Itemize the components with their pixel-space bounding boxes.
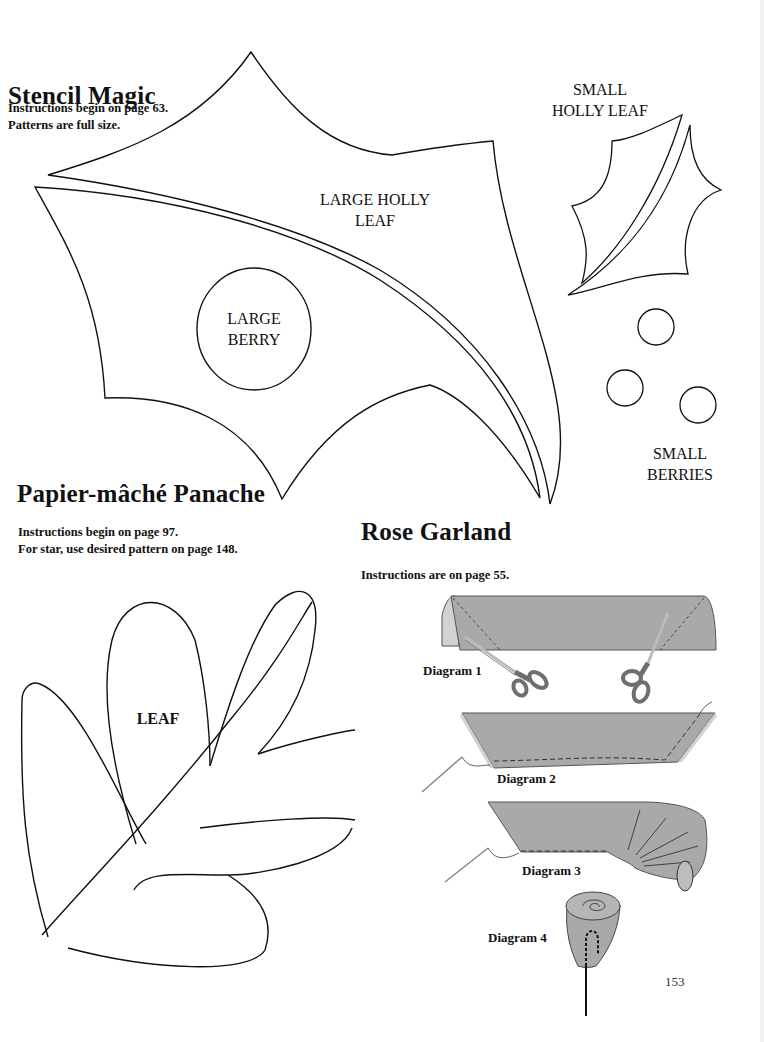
diagram-4-illustration (566, 892, 620, 1016)
papier-mache-notes: Instructions begin on page 97. For star,… (18, 524, 238, 558)
page-number: 153 (665, 974, 685, 990)
small-berry-outline (638, 309, 674, 345)
small-holly-leaf-label: SMALL HOLLY LEAF (530, 79, 670, 121)
large-berry-label: LARGE BERRY (204, 308, 304, 350)
large-holly-leaf-label: LARGE HOLLY LEAF (295, 189, 455, 231)
small-holly-leaf-right-outline (568, 125, 721, 295)
rose-garland-title: Rose Garland (361, 518, 511, 546)
papier-mache-leaf-outline (22, 591, 355, 966)
rose-garland-note: Instructions are on page 55. (361, 567, 509, 584)
papier-mache-note-instructions: Instructions begin on page 97. (18, 524, 238, 541)
diagram-2-label: Diagram 2 (497, 771, 556, 787)
diagram-4-label: Diagram 4 (488, 930, 547, 946)
diagram-3-label: Diagram 3 (522, 863, 581, 879)
diagram-2-illustration (422, 702, 717, 792)
page-edge-shadow (760, 0, 764, 1042)
diagram-1-illustration (442, 596, 716, 704)
diagram-1-label: Diagram 1 (423, 663, 482, 679)
papier-mache-note-star: For star, use desired pattern on page 14… (18, 541, 238, 558)
leaf-label: LEAF (128, 708, 188, 729)
small-berry-outline (680, 387, 716, 423)
small-berry-outline (607, 370, 643, 406)
papier-mache-title: Papier-mâché Panache (17, 480, 265, 508)
stencil-magic-note-instructions: Instructions begin on page 63. (8, 100, 168, 117)
stencil-magic-note-size: Patterns are full size. (8, 117, 168, 134)
small-holly-leaf-left-outline (572, 115, 682, 283)
small-berries-label: SMALL BERRIES (630, 443, 730, 485)
stencil-magic-notes: Instructions begin on page 63. Patterns … (8, 100, 168, 134)
